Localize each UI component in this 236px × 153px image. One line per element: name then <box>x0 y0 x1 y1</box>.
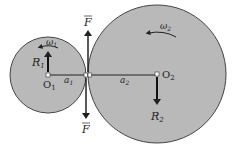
contact-point-1 <box>84 73 88 77</box>
force-top-label: F <box>83 16 92 29</box>
force-bottom-label: F <box>81 123 90 136</box>
center-point-2 <box>155 72 159 76</box>
gear-diagram: F F ω1 ω2 R1 R2 O1 O2 a1 a2 <box>0 0 236 153</box>
contact-point-2 <box>88 73 92 77</box>
center-point-1 <box>46 73 50 77</box>
